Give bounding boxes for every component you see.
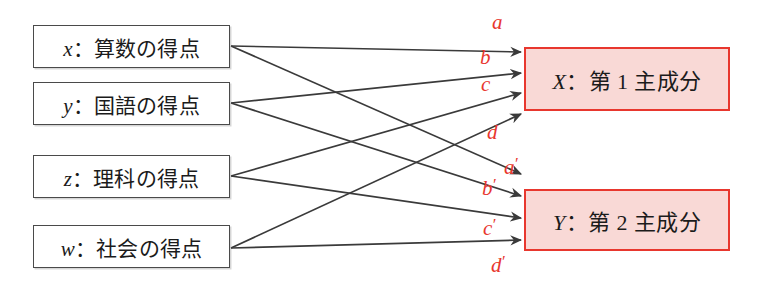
pca-path-diagram: x：算数の得点 y：国語の得点 z：理科の得点 w：社会の得点 X：第 1 主成… [0, 0, 765, 293]
coefficient-label-y-X: b [480, 47, 491, 68]
input-box-y: y：国語の得点 [33, 82, 230, 125]
component-sep-Y: ： [566, 210, 588, 235]
coefficient-label-w-Y: d′ [491, 253, 506, 276]
input-text-z: 理科の得点 [93, 167, 199, 191]
input-text-x: 算数の得点 [94, 37, 200, 61]
input-sep-y: ： [73, 94, 94, 118]
component-var-X: X [552, 69, 566, 94]
edge-y-X [231, 73, 521, 103]
coefficient-label-y-Y: b′ [482, 176, 497, 199]
component-sep-X: ： [566, 69, 588, 94]
input-var-y: y [63, 94, 73, 118]
input-box-w: w：社会の得点 [33, 225, 230, 268]
component-text-X: 第 1 主成分 [589, 69, 702, 94]
component-text-Y: 第 2 主成分 [588, 210, 701, 235]
input-sep-x: ： [73, 37, 94, 61]
edge-x-X [231, 46, 521, 52]
component-box-first: X：第 1 主成分 [524, 47, 730, 111]
input-box-x: x：算数の得点 [33, 25, 230, 68]
component-label-first: X：第 1 主成分 [552, 63, 701, 95]
input-label-z: z：理科の得点 [64, 162, 200, 192]
input-text-w: 社会の得点 [96, 237, 202, 261]
input-text-y: 国語の得点 [94, 94, 200, 118]
component-box-second: Y：第 2 主成分 [524, 189, 730, 251]
edge-x-Y [231, 46, 521, 174]
coefficient-label-w-X: d [487, 122, 498, 143]
input-sep-w: ： [75, 237, 96, 261]
input-var-z: z [64, 167, 72, 191]
coefficient-label-z-Y: c′ [483, 216, 497, 239]
coefficient-label-x-X: a [492, 12, 503, 33]
input-sep-z: ： [72, 167, 93, 191]
coefficient-label-x-Y: a′ [504, 155, 519, 178]
input-label-w: w：社会の得点 [61, 232, 202, 262]
input-var-x: x [63, 37, 73, 61]
input-box-z: z：理科の得点 [33, 155, 230, 198]
input-var-w: w [61, 237, 75, 261]
component-var-Y: Y [553, 210, 566, 235]
input-label-y: y：国語の得点 [63, 89, 200, 119]
coefficient-label-z-X: c [481, 74, 490, 95]
component-label-second: Y：第 2 主成分 [553, 204, 701, 236]
edge-w-Y [231, 240, 521, 248]
input-label-x: x：算数の得点 [63, 32, 200, 62]
